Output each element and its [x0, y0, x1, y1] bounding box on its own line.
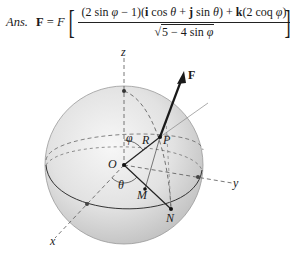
point-P-dot	[158, 135, 162, 139]
point-M-label: M	[136, 188, 148, 202]
force-label: F	[188, 68, 195, 82]
x-axis-label: x	[49, 234, 56, 248]
origin-dot	[122, 163, 126, 167]
origin-label: O	[108, 157, 117, 171]
radius-label: R	[141, 133, 150, 147]
sphere-diagram: z y x O P M N R φ θ F	[0, 0, 296, 255]
x-axis-intersection-dot	[85, 202, 89, 206]
north-pole-dot	[122, 89, 126, 93]
y-axis-intersection-dot	[196, 175, 200, 179]
point-P-label: P	[162, 133, 171, 147]
point-N-label: N	[165, 211, 175, 225]
y-axis-label: y	[232, 176, 239, 190]
z-axis-label: z	[120, 45, 126, 59]
phi-label: φ	[126, 131, 133, 145]
force-arrow-head	[177, 71, 186, 84]
theta-label: θ	[118, 178, 124, 192]
